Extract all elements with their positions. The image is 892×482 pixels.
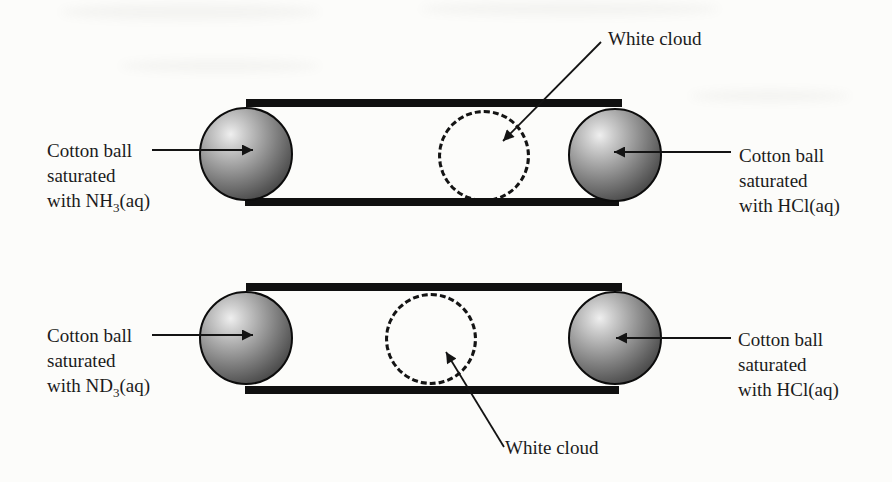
label-line: with ND3(aq) xyxy=(47,373,150,398)
tube-top-upper-wall xyxy=(246,99,622,107)
label-line: saturated xyxy=(738,352,839,377)
tube-bottom-upper-wall xyxy=(246,283,622,291)
scan-smudge xyxy=(60,4,320,20)
label-line: saturated xyxy=(47,163,150,188)
white-cloud-top-circle xyxy=(438,110,530,202)
arrow-layer xyxy=(0,0,892,482)
tube-top-lower-wall xyxy=(245,198,619,206)
label-line: Cotton ball xyxy=(738,327,839,352)
diffusion-diagram: White cloud Cotton ball saturated with N… xyxy=(0,0,892,482)
cotton-ball-nd3 xyxy=(199,291,293,385)
white-cloud-bottom-circle xyxy=(385,293,477,385)
label-cotton-ball-hcl-bottom: Cotton ball saturated with HCl(aq) xyxy=(738,327,839,402)
label-line: Cotton ball xyxy=(47,323,150,348)
white-cloud-bottom-label: White cloud xyxy=(505,435,598,460)
label-cotton-ball-hcl-top: Cotton ball saturated with HCl(aq) xyxy=(739,143,840,218)
label-line: with NH3(aq) xyxy=(47,188,150,213)
label-line: saturated xyxy=(739,168,840,193)
label-cotton-ball-nh3: Cotton ball saturated with NH3(aq) xyxy=(47,138,150,213)
label-cotton-ball-nd3: Cotton ball saturated with ND3(aq) xyxy=(47,323,150,398)
label-line: Cotton ball xyxy=(47,138,150,163)
scan-smudge xyxy=(120,60,320,72)
scan-smudge xyxy=(690,90,850,102)
tube-bottom-lower-wall xyxy=(245,386,619,394)
white-cloud-top-label: White cloud xyxy=(608,26,701,51)
cotton-ball-hcl-top xyxy=(568,108,662,202)
label-line: saturated xyxy=(47,348,150,373)
scan-smudge xyxy=(420,2,720,16)
label-line: Cotton ball xyxy=(739,143,840,168)
label-line: with HCl(aq) xyxy=(738,377,839,402)
label-line: with HCl(aq) xyxy=(739,193,840,218)
cotton-ball-nh3 xyxy=(199,107,293,201)
cotton-ball-hcl-bottom xyxy=(568,291,662,385)
